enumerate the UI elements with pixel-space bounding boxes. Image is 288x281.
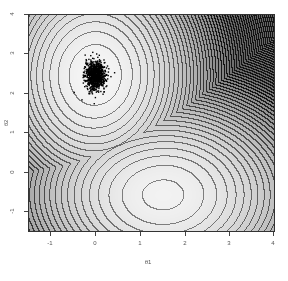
y-tick — [24, 93, 28, 94]
x-tick — [185, 232, 186, 236]
x-tick-label: 1 — [138, 240, 141, 246]
y-tick-label: 4 — [9, 12, 15, 15]
x-tick — [229, 232, 230, 236]
x-axis-title: θ1 — [145, 259, 152, 265]
y-tick — [24, 132, 28, 133]
y-tick-label: -1 — [9, 208, 15, 213]
y-tick — [24, 172, 28, 173]
contour-plot-area — [28, 14, 275, 232]
y-tick — [24, 53, 28, 54]
y-tick — [24, 211, 28, 212]
x-tick-label: 4 — [271, 240, 274, 246]
x-tick-label: -1 — [47, 240, 52, 246]
y-tick-label: 1 — [9, 130, 15, 133]
x-tick-label: 3 — [227, 240, 230, 246]
y-tick-label: 3 — [9, 51, 15, 54]
x-tick — [273, 232, 274, 236]
x-tick-label: 0 — [93, 240, 96, 246]
y-tick — [24, 14, 28, 15]
y-tick-label: 0 — [9, 170, 15, 173]
y-axis-title: θ2 — [3, 120, 9, 127]
x-tick — [95, 232, 96, 236]
x-tick — [140, 232, 141, 236]
y-tick-label: 2 — [9, 91, 15, 94]
x-tick-label: 2 — [183, 240, 186, 246]
x-tick — [50, 232, 51, 236]
